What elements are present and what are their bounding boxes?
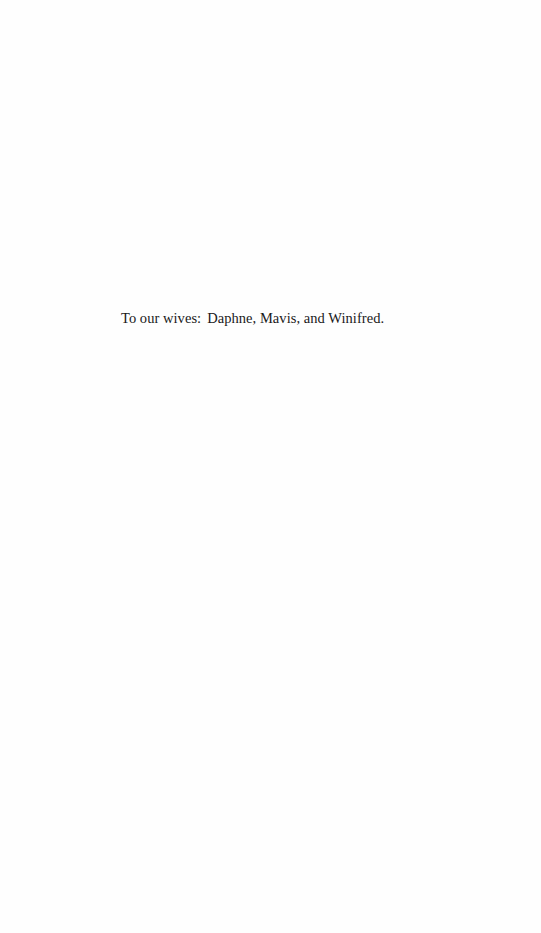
dedication-names: Daphne, Mavis, and Winifred. [207,310,384,326]
dedication-text: To our wives:Daphne, Mavis, and Winifred… [121,310,384,327]
dedication-lead: To our wives: [121,310,201,326]
document-page: To our wives:Daphne, Mavis, and Winifred… [0,0,541,933]
